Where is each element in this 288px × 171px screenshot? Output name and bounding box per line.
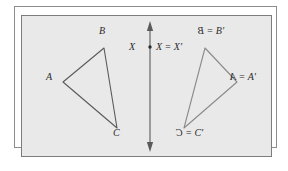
triangle-abc	[63, 48, 117, 128]
vertex-label-a: A	[46, 72, 52, 82]
drawing-layer	[0, 0, 288, 171]
equals-a-prime: = A'	[236, 71, 256, 82]
vertex-label-c-prime: C = C'	[176, 128, 203, 138]
mirror-line-group	[147, 21, 153, 152]
mirrored-glyph-b: B	[198, 26, 204, 36]
mirrored-glyph-a: A	[230, 72, 236, 82]
vertex-label-b-prime: B = B'	[198, 26, 224, 36]
equals-b-prime: = B'	[204, 25, 224, 36]
triangle-abc-prime	[184, 48, 237, 128]
center-point-dot	[148, 45, 151, 48]
vertex-label-c: C	[113, 128, 120, 138]
vertex-label-a-prime: A = A'	[230, 72, 256, 82]
vertex-label-b: B	[99, 26, 105, 36]
center-label-x: X	[129, 42, 135, 52]
mirror-arrowhead-top	[147, 21, 153, 31]
reflection-figure: A B C X X = X' B = B' A = A' C = C'	[0, 0, 288, 171]
mirror-arrowhead-bottom	[147, 142, 153, 152]
equals-c-prime: = C'	[183, 127, 204, 138]
mirrored-glyph-c: C	[176, 128, 183, 138]
center-label-x-prime: X = X'	[156, 42, 182, 52]
